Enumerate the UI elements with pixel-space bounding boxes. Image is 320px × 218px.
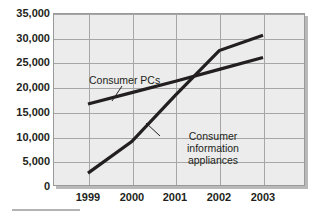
series-layer (0, 0, 320, 218)
series-annotation-consumer-pcs: Consumer PCs (89, 74, 160, 86)
footer-rule (12, 209, 80, 211)
leader-line-consumer-pcs (112, 86, 122, 101)
annotation-line-1: Consumer information (187, 130, 239, 154)
annotation-line-2: appliances (188, 154, 238, 166)
leader-line-consumer-information-appliances (146, 123, 160, 136)
series-annotation-consumer-information-appliances: Consumer information appliances (163, 130, 263, 166)
line-chart: 35,000 30,000 25,000 20,000 15,000 10,00… (0, 0, 320, 218)
